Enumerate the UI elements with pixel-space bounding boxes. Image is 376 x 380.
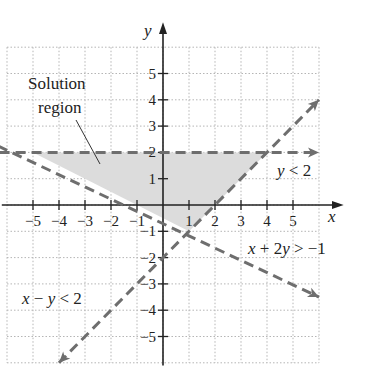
x-axis-label: x	[327, 207, 336, 226]
solution-region	[33, 152, 267, 231]
y-tick-label: 5	[149, 66, 157, 82]
y-axis-arrow-icon	[159, 22, 167, 34]
solution-label-line1: Solution	[28, 74, 86, 93]
x-tick-label: −5	[25, 213, 41, 229]
y-tick-label: 1	[149, 171, 157, 187]
label-x-plus-2y-gt-neg1: x + 2y > −1	[247, 239, 326, 258]
y-tick-label: −2	[140, 250, 156, 266]
y-tick-label: −5	[140, 329, 156, 345]
label-y-lt-2: y < 2	[275, 161, 311, 180]
x-tick-label: 5	[289, 213, 297, 229]
y-axis-label: y	[142, 21, 152, 40]
y-tick-label: 3	[149, 118, 157, 134]
inequality-graph: −5−4−3−2−11234554321−1−2−3−4−5 x y Solut…	[0, 0, 376, 380]
x-tick-label: 3	[237, 213, 245, 229]
y-tick-label: −4	[140, 302, 156, 318]
x-tick-label: −4	[51, 213, 67, 229]
solution-label-line2: region	[38, 98, 82, 117]
arrowhead-icon	[59, 351, 70, 362]
x-tick-label: 4	[263, 213, 271, 229]
x-tick-label: 1	[185, 213, 193, 229]
x-tick-label: −3	[77, 213, 93, 229]
x-tick-label: 2	[211, 213, 219, 229]
y-tick-label: −1	[140, 223, 156, 239]
label-x-minus-y-lt-2: x − y < 2	[21, 289, 82, 308]
y-tick-label: 4	[149, 92, 157, 108]
x-tick-label: −2	[103, 213, 119, 229]
